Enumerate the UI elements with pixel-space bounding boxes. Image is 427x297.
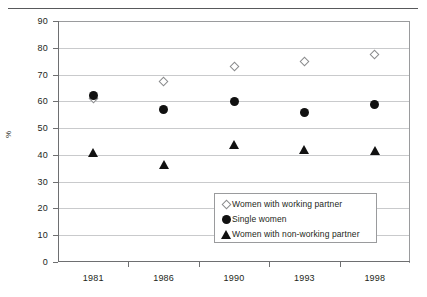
x-axis-tick-mark bbox=[128, 262, 129, 267]
legend-item-single-women: Single women bbox=[220, 212, 287, 226]
chart-legend: Women with working partner Single women … bbox=[214, 193, 377, 243]
legend-label: Women with non-working partner bbox=[232, 230, 360, 239]
y-axis-tick-label: 50 bbox=[18, 124, 48, 133]
y-axis-tick-mark bbox=[53, 262, 58, 263]
x-axis-tick-mark bbox=[199, 262, 200, 267]
y-axis-tick-label: 80 bbox=[18, 44, 48, 53]
y-axis-tick-label: 30 bbox=[18, 178, 48, 187]
x-axis-tick-label: 1998 bbox=[350, 274, 400, 283]
y-axis-tick-label: 0 bbox=[18, 258, 48, 267]
open-diamond-marker-icon bbox=[220, 198, 232, 210]
legend-label: Single women bbox=[232, 215, 287, 224]
top-divider-rule bbox=[8, 8, 418, 9]
x-axis-tick-label: 1990 bbox=[209, 274, 259, 283]
y-axis-tick-label: 70 bbox=[18, 71, 48, 80]
legend-label: Women with working partner bbox=[232, 200, 342, 209]
filled-circle-marker-icon bbox=[220, 213, 232, 225]
y-axis-tick-label: 20 bbox=[18, 204, 48, 213]
x-axis-tick-mark bbox=[340, 262, 341, 267]
y-axis-label: % bbox=[5, 131, 13, 138]
filled-triangle-marker-icon bbox=[220, 228, 232, 240]
x-axis-tick-mark bbox=[269, 262, 270, 267]
legend-item-non-working-partner: Women with non-working partner bbox=[220, 227, 360, 241]
y-axis-tick-label: 40 bbox=[18, 151, 48, 160]
y-axis-tick-label: 60 bbox=[18, 97, 48, 106]
x-axis-tick-label: 1986 bbox=[139, 274, 189, 283]
x-axis-tick-label: 1981 bbox=[68, 274, 118, 283]
chart-figure: % 0102030405060708090 198119861990199319… bbox=[0, 0, 427, 297]
x-axis-tick-label: 1993 bbox=[279, 274, 329, 283]
y-axis-tick-label: 90 bbox=[18, 17, 48, 26]
legend-item-working-partner: Women with working partner bbox=[220, 197, 342, 211]
y-axis-tick-label: 10 bbox=[18, 231, 48, 240]
